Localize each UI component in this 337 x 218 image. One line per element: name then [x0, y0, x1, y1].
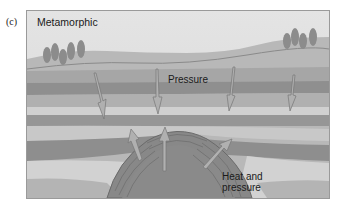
panel-label: (c) — [6, 16, 17, 27]
diagram-title: Metamorphic — [37, 17, 98, 28]
rock-layers-diagram — [27, 11, 329, 198]
pressure-label: Pressure — [168, 74, 208, 85]
diagram-frame — [26, 10, 330, 199]
heat-pressure-label: Heat and pressure — [222, 171, 263, 193]
heat-label-line1: Heat and — [222, 171, 263, 182]
heat-label-line2: pressure — [222, 182, 263, 193]
